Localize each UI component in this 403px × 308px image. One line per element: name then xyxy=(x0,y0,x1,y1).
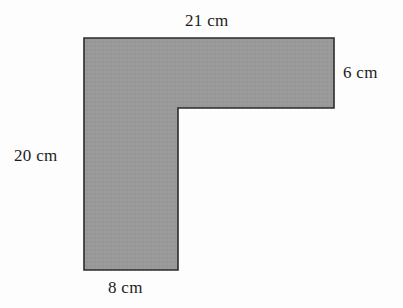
dimension-label-bottom: 8 cm xyxy=(108,279,143,296)
dimension-label-left: 20 cm xyxy=(14,147,58,164)
l-shape-polygon xyxy=(84,38,334,270)
figure-container: 21 cm 6 cm 20 cm 8 cm xyxy=(0,0,403,308)
dimension-label-top: 21 cm xyxy=(185,12,229,29)
l-shape-diagram xyxy=(0,0,403,308)
dimension-label-right: 6 cm xyxy=(343,64,378,81)
